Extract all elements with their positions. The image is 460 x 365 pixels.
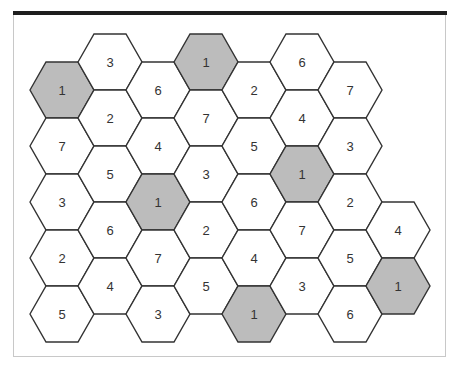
cell-number: 7 <box>346 83 353 98</box>
cell-number: 5 <box>346 251 353 266</box>
cell-number: 6 <box>346 307 353 322</box>
cell-number: 3 <box>346 139 353 154</box>
cell-number: 1 <box>154 195 161 210</box>
cell-number: 3 <box>106 55 113 70</box>
cell-number: 6 <box>298 55 305 70</box>
cell-number: 7 <box>202 111 209 126</box>
cell-number: 3 <box>154 307 161 322</box>
cell-number: 2 <box>202 223 209 238</box>
cell-number: 5 <box>58 307 65 322</box>
cell-number: 6 <box>250 195 257 210</box>
cell-number: 4 <box>394 223 401 238</box>
cell-number: 7 <box>154 251 161 266</box>
cell-number: 3 <box>202 167 209 182</box>
cell-number: 1 <box>394 279 401 294</box>
cell-number: 5 <box>250 139 257 154</box>
cell-number: 2 <box>58 251 65 266</box>
cell-number: 7 <box>58 139 65 154</box>
cell-number: 7 <box>298 223 305 238</box>
cell-number: 1 <box>58 83 65 98</box>
cell-number: 2 <box>346 195 353 210</box>
cell-number: 6 <box>154 83 161 98</box>
cell-number: 2 <box>250 83 257 98</box>
cell-number: 5 <box>202 279 209 294</box>
cell-number: 4 <box>106 279 113 294</box>
cell-number: 6 <box>106 223 113 238</box>
cell-number: 4 <box>298 111 305 126</box>
cell-number: 3 <box>298 279 305 294</box>
cell-number: 4 <box>154 139 161 154</box>
cell-number: 1 <box>298 167 305 182</box>
hex-grid: 1732532564641731732525641641737325641 <box>0 0 460 365</box>
cell-number: 3 <box>58 195 65 210</box>
cell-number: 2 <box>106 111 113 126</box>
cell-number: 5 <box>106 167 113 182</box>
cell-number: 4 <box>250 251 257 266</box>
cell-number: 1 <box>202 55 209 70</box>
cell-number: 1 <box>250 307 257 322</box>
